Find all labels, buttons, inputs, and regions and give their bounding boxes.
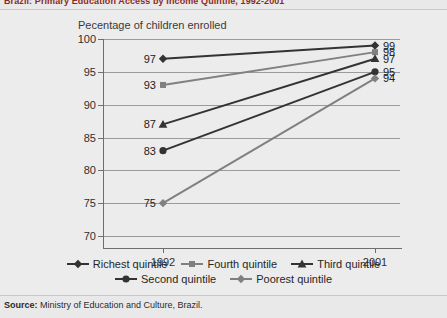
data-point-label: 94 [383,72,395,84]
diamond-marker [371,74,379,82]
y-axis-tick-label: 90 [84,99,96,111]
legend-triangle-key-icon [291,258,313,270]
square-marker [160,82,166,88]
data-point-label: 75 [144,197,156,209]
series-line [163,78,375,203]
legend-diamond-key-icon [230,273,252,285]
legend-item[interactable]: Poorest quintile [230,273,332,285]
y-axis-tick-label: 75 [84,197,96,209]
diamond-marker [159,55,167,63]
source-text: Ministry of Education and Culture, Brazi… [40,300,203,310]
legend-row-1: Richest quintileFourth quintileThird qui… [0,256,447,271]
gridline [103,236,400,237]
y-axis-tick-labels: 707580859095100 [63,39,96,236]
y-axis-tick [98,236,103,237]
series-line [163,72,375,151]
data-point-label: 83 [144,145,156,157]
y-axis-tick-label: 95 [84,66,96,78]
data-point-label: 93 [144,79,156,91]
data-point-label: 97 [383,53,395,65]
diamond-marker [159,199,167,207]
legend-item-label: Third quintile [317,258,380,270]
circle-marker [159,147,166,154]
legend-square-key-icon [181,258,203,270]
diamond-marker [74,259,82,267]
x-axis-tick [375,248,376,253]
legend-item-label: Richest quintile [93,258,168,270]
triangle-marker [371,54,380,62]
chart-title: Brazil: Primary Education Access by Inco… [4,0,284,6]
square-marker [372,49,378,55]
source-note: Source: Ministry of Education and Cultur… [4,300,203,310]
legend-item[interactable]: Fourth quintile [181,258,277,270]
diamond-marker [237,274,245,282]
y-axis-tick-label: 80 [84,164,96,176]
circle-marker [122,275,129,282]
y-axis-tick-label: 100 [78,33,96,45]
x-axis-line [103,248,402,249]
x-axis-tick [163,248,164,253]
legend-row-2: Second quintilePoorest quintile [0,271,447,286]
legend-circle-key-icon [115,273,137,285]
y-axis-tick-label: 70 [84,230,96,242]
square-marker [189,261,195,267]
legend-item-label: Fourth quintile [207,258,277,270]
chart-legend: Richest quintileFourth quintileThird qui… [0,256,447,286]
plot-area: 19922001 97999398879783957594 [103,39,400,236]
diamond-marker [371,41,379,49]
legend-item[interactable]: Third quintile [291,258,380,270]
legend-item-label: Poorest quintile [256,273,332,285]
y-axis-tick-label: 85 [84,132,96,144]
y-axis-title: Pecentage of children enrolled [78,19,227,31]
data-point-label: 87 [144,118,156,130]
legend-diamond-key-icon [67,258,89,270]
legend-item[interactable]: Second quintile [115,273,216,285]
chart-figure: Pecentage of children enrolled 707580859… [0,9,447,296]
legend-item-label: Second quintile [141,273,216,285]
legend-item[interactable]: Richest quintile [67,258,168,270]
data-point-label: 97 [144,53,156,65]
source-label: Source: [4,300,38,310]
